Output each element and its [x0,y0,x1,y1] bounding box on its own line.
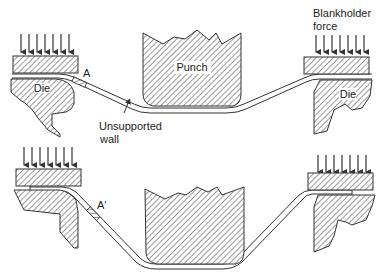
punch-bottom [145,187,244,264]
point-a-label: A [83,67,91,79]
blankholder-right-bottom [308,173,373,190]
blankholder-left-top [13,56,78,73]
blankholder-right-top [304,57,369,74]
die-left-bottom [14,190,78,248]
die-left-label-top: Die [34,82,51,94]
deep-drawing-diagram: Die A Punch Blankholder force Die Un [0,0,385,274]
blankholder-force-arrows-left-bottom [24,147,72,165]
blankholder-force-label-line2: force [313,20,337,32]
stage-1: Die A Punch Blankholder force Die Un [11,7,372,145]
blankholder-force-arrows-right-bottom [318,155,366,172]
die-right-bottom [314,195,375,252]
blankholder-force-label-line1: Blankholder [313,7,371,19]
blankholder-force-arrows-left-top [21,34,69,52]
blankholder-left-bottom [16,169,81,186]
point-a-prime-label: A′ [97,199,106,211]
unsupported-wall-label-line1: Unsupported [99,120,162,132]
blankholder-force-arrows-right-top [316,35,364,52]
punch-label: Punch [176,61,207,73]
die-right-label-top: Die [340,88,357,100]
diagram-canvas: Die A Punch Blankholder force Die Un [0,0,385,274]
unsupported-wall-label-line2: wall [99,133,119,145]
stage-2: A′ [14,147,375,269]
